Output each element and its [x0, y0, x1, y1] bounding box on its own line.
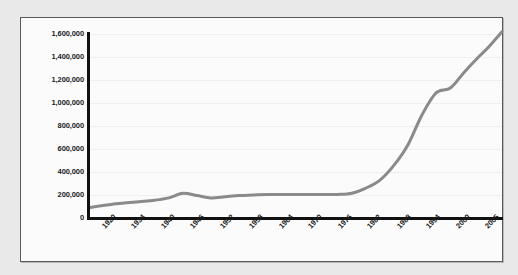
x-axis-tick-label: 1988	[395, 212, 413, 230]
x-axis-tick-label: 1976	[336, 212, 354, 230]
x-axis-tick-label: 2005	[483, 212, 501, 230]
x-axis-tick-label: 1982	[365, 212, 383, 230]
x-axis-tick-label: 1940	[159, 212, 177, 230]
x-axis-tick-label: 1994	[424, 212, 442, 230]
x-axis-tick-label: 1952	[218, 212, 236, 230]
x-axis-tick-label: 2000	[454, 212, 472, 230]
x-axis-tick-label: 1920	[100, 212, 118, 230]
x-axis-tick-label: 1970	[306, 212, 324, 230]
chart-screenshot: 0200,000400,000600,000800,0001,000,0001,…	[0, 0, 518, 275]
chart-frame: 0200,000400,000600,000800,0001,000,0001,…	[20, 17, 503, 262]
x-axis-tick-labels: 1920193419401946195219581964197019761982…	[21, 18, 504, 263]
x-axis-tick-label: 1946	[188, 212, 206, 230]
x-axis-tick-label: 1964	[277, 212, 295, 230]
x-axis-tick-label: 1958	[247, 212, 265, 230]
x-axis-tick-label: 1934	[129, 212, 147, 230]
